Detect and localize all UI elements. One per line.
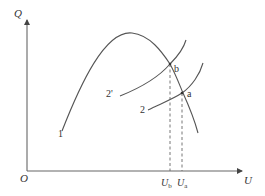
tick-ua-sub: a <box>184 182 188 190</box>
point-b-label: b <box>174 63 179 74</box>
origin-label: O <box>20 172 28 184</box>
tick-ub-label: Ub <box>161 177 172 190</box>
y-axis-label: Q <box>14 7 22 19</box>
diagram-canvas: Q O U 1 2 2' b a Ub Ua <box>0 0 265 196</box>
curve-2-prime-label: 2' <box>106 88 113 99</box>
point-b-marker <box>169 63 172 66</box>
curve-1-label: 1 <box>58 128 63 139</box>
tick-ua-label: Ua <box>177 177 188 190</box>
x-axis-label: U <box>244 174 253 186</box>
curve-1 <box>62 33 198 133</box>
curve-2-label: 2 <box>140 104 145 115</box>
point-a-marker <box>181 92 184 95</box>
tick-ub-sub: b <box>168 182 172 190</box>
point-a-label: a <box>187 88 192 99</box>
